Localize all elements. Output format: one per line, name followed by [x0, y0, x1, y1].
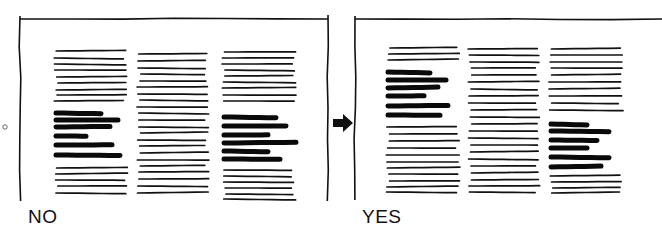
diagram-canvas [0, 0, 662, 239]
bold-text-line [388, 72, 430, 73]
text-line [389, 53, 459, 54]
text-line [141, 74, 205, 75]
text-line [552, 74, 621, 75]
text-line [138, 68, 205, 69]
label-yes: YES [362, 206, 402, 228]
text-line [140, 100, 208, 101]
text-line [553, 187, 620, 188]
text-line [390, 47, 457, 48]
text-line [226, 194, 293, 195]
text-line [552, 103, 619, 104]
bold-text-line [56, 155, 120, 156]
text-line [469, 55, 538, 56]
text-line [387, 192, 457, 193]
text-line [56, 50, 125, 51]
text-line [140, 146, 205, 147]
frame-top-yes [355, 19, 662, 20]
text-line [54, 64, 125, 65]
bold-text-line [388, 105, 448, 106]
text-line [468, 81, 539, 82]
text-line [54, 101, 123, 102]
text-line [140, 152, 208, 153]
frame-top-no [20, 18, 328, 19]
text-line [57, 76, 127, 77]
frame-left-no [19, 16, 21, 201]
text-line [471, 172, 537, 173]
text-line [470, 151, 538, 152]
text-line [54, 58, 123, 59]
side-mark [3, 125, 7, 129]
text-line [387, 167, 460, 168]
text-line [469, 159, 539, 160]
label-no: NO [28, 206, 58, 228]
text-line [141, 132, 208, 133]
bold-text-line [56, 127, 110, 128]
text-line [139, 127, 209, 128]
text-line [58, 83, 126, 84]
text-line [549, 88, 620, 89]
arrow-right-icon [333, 114, 353, 132]
text-line [550, 110, 623, 111]
bold-text-line [551, 157, 609, 158]
bold-text-line [551, 124, 587, 125]
text-line [225, 70, 294, 71]
text-line [138, 186, 208, 187]
bold-text-line [224, 151, 268, 152]
bold-text-line [551, 131, 609, 132]
text-line [468, 138, 538, 139]
text-line [471, 89, 537, 90]
text-line [223, 82, 295, 83]
bold-text-line [551, 140, 597, 141]
text-line [222, 87, 295, 88]
text-line [56, 89, 126, 90]
bold-text-line [551, 166, 601, 167]
text-line [469, 192, 535, 193]
text-line [57, 167, 128, 168]
text-line [139, 113, 209, 114]
text-line [225, 76, 293, 77]
text-line [472, 180, 539, 181]
frame-right-no [327, 15, 328, 201]
text-line [551, 48, 620, 49]
bold-text-line [224, 142, 296, 143]
bold-text-line [388, 87, 438, 88]
bold-text-line [224, 117, 276, 118]
text-line [138, 192, 209, 193]
text-line [140, 165, 204, 166]
text-line [56, 193, 126, 194]
bold-text-line [56, 113, 101, 114]
frame-left-yes [354, 16, 356, 200]
text-line [224, 199, 296, 200]
text-line [224, 176, 291, 177]
text-line [56, 173, 128, 174]
text-line [388, 59, 458, 60]
text-line [387, 186, 458, 187]
text-line [138, 60, 205, 61]
text-line [552, 192, 620, 193]
text-line [139, 54, 207, 55]
text-line [550, 175, 620, 176]
